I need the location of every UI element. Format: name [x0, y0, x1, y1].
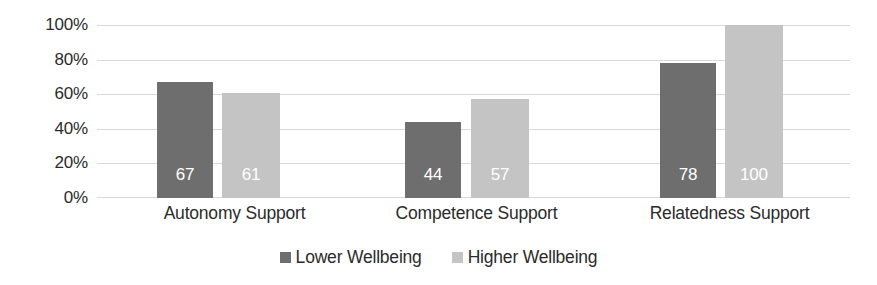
bar-value-label: 78 [660, 165, 716, 185]
legend-item-higher-wellbeing: Higher Wellbeing [452, 247, 598, 268]
bar-value-label: 44 [405, 165, 461, 185]
legend-swatch-icon [280, 252, 291, 263]
y-axis: 100% 80% 60% 40% 20% 0% [0, 0, 88, 285]
legend-item-lower-wellbeing: Lower Wellbeing [280, 247, 422, 268]
bar-value-label: 57 [471, 165, 529, 185]
bar-higher-wellbeing-relatedness-support: 100 [725, 25, 783, 198]
bar-lower-wellbeing-relatedness-support: 78 [660, 63, 716, 198]
bar-chart: 100% 80% 60% 40% 20% 0% 67 61 44 57 78 [0, 0, 877, 285]
bar-value-label: 100 [725, 165, 783, 185]
y-tick-label: 100% [0, 15, 88, 35]
legend-swatch-icon [452, 252, 463, 263]
y-tick-label: 20% [0, 153, 88, 173]
bar-value-label: 67 [157, 165, 213, 185]
category-label-autonomy-support: Autonomy Support [127, 203, 342, 224]
y-tick-label: 40% [0, 119, 88, 139]
legend-label: Higher Wellbeing [468, 247, 598, 268]
x-axis: Autonomy Support Competence Support Rela… [97, 203, 850, 235]
y-tick-label: 60% [0, 84, 88, 104]
bar-higher-wellbeing-competence-support: 57 [471, 99, 529, 198]
bar-higher-wellbeing-autonomy-support: 61 [222, 93, 280, 199]
y-tick-label: 0% [0, 188, 88, 208]
bar-lower-wellbeing-autonomy-support: 67 [157, 82, 213, 198]
category-label-relatedness-support: Relatedness Support [617, 203, 842, 224]
category-label-competence-support: Competence Support [369, 203, 584, 224]
bar-value-label: 61 [222, 165, 280, 185]
plot-area: 67 61 44 57 78 100 [97, 25, 850, 198]
legend-label: Lower Wellbeing [296, 247, 422, 268]
bar-lower-wellbeing-competence-support: 44 [405, 122, 461, 198]
y-tick-label: 80% [0, 50, 88, 70]
chart-legend: Lower Wellbeing Higher Wellbeing [0, 247, 877, 268]
